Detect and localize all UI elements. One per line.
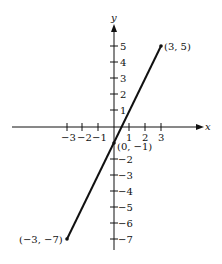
point-top-label: (3, 5) — [164, 41, 191, 52]
x-axis-label: x — [205, 121, 211, 132]
x-tick-label: −1 — [92, 132, 107, 143]
y-tick-label: 3 — [120, 73, 126, 84]
y-tick-label: −2 — [118, 154, 133, 165]
point-intercept — [112, 141, 116, 145]
y-tick-label: −3 — [118, 170, 133, 181]
point-bottom-label: (−3, −7) — [19, 234, 63, 245]
x-tick-label: 3 — [158, 132, 164, 143]
point-intercept-label: (0, −1) — [117, 141, 152, 152]
coordinate-graph: x y −3 −2 −1 1 2 3 5 4 3 2 1 −2 −3 −4 −5… — [0, 0, 222, 264]
y-tick-label: −4 — [118, 186, 133, 197]
y-tick-label: −7 — [118, 234, 133, 245]
y-tick-label: −6 — [118, 218, 133, 229]
x-tick-label: −2 — [77, 132, 92, 143]
x-tick-label: −3 — [61, 132, 76, 143]
y-tick-label: −5 — [118, 202, 133, 213]
y-tick-label: 2 — [120, 89, 126, 100]
y-tick-label: 5 — [120, 41, 126, 52]
point-bottom — [65, 237, 69, 241]
point-top — [159, 44, 163, 48]
y-axis-label: y — [110, 12, 117, 23]
y-tick-label: 4 — [120, 57, 126, 68]
y-tick-label: 1 — [120, 105, 126, 116]
